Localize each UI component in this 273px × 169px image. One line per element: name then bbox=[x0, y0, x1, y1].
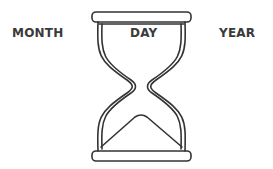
day-label: DAY bbox=[130, 26, 157, 40]
month-label: MONTH bbox=[12, 26, 63, 40]
year-label: YEAR bbox=[219, 26, 255, 40]
